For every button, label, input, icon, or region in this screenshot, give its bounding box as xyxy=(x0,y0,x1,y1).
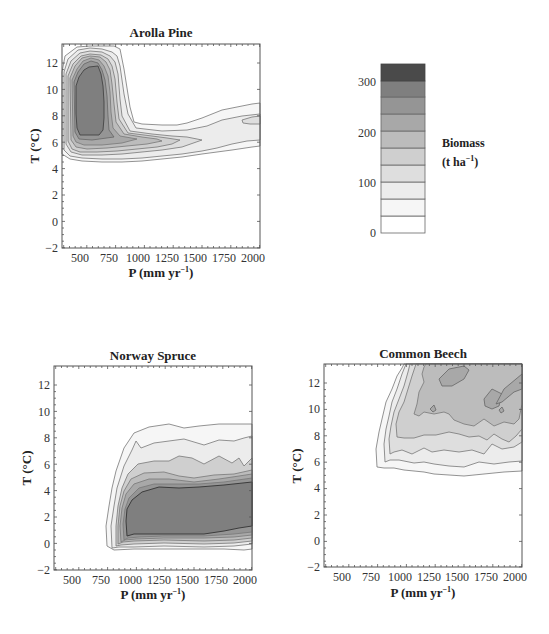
svg-text:8: 8 xyxy=(314,429,320,443)
x-axis-label: P (mm yr−1) xyxy=(54,587,252,603)
svg-text:1750: 1750 xyxy=(204,573,228,587)
svg-text:2000: 2000 xyxy=(233,573,257,587)
colorbar-legend: 0 100 200 300 Biomass (t ha−1) xyxy=(340,55,520,255)
svg-text:2: 2 xyxy=(314,508,320,522)
x-axis-label: P (mm yr−1) xyxy=(62,265,260,281)
svg-text:2: 2 xyxy=(44,510,50,524)
svg-text:500: 500 xyxy=(63,573,81,587)
panel-common-beech: Common Beech xyxy=(270,340,549,630)
svg-text:4: 4 xyxy=(44,484,50,498)
svg-text:300: 300 xyxy=(358,75,376,89)
svg-text:750: 750 xyxy=(100,251,118,265)
svg-text:10: 10 xyxy=(38,405,50,419)
svg-text:4: 4 xyxy=(52,162,58,176)
svg-text:8: 8 xyxy=(52,109,58,123)
svg-text:1750: 1750 xyxy=(212,251,236,265)
svg-text:10: 10 xyxy=(308,402,320,416)
legend-tick: 0 xyxy=(370,226,376,240)
y-axis-label: T (°C) xyxy=(19,438,35,498)
svg-text:−2: −2 xyxy=(307,560,320,574)
svg-text:1000: 1000 xyxy=(388,570,412,584)
svg-text:−2: −2 xyxy=(37,563,50,577)
svg-text:1500: 1500 xyxy=(445,570,469,584)
svg-text:0: 0 xyxy=(314,534,320,548)
svg-text:1250: 1250 xyxy=(147,573,171,587)
svg-text:500: 500 xyxy=(333,570,351,584)
svg-text:6: 6 xyxy=(52,136,58,150)
svg-text:4: 4 xyxy=(314,481,320,495)
panel-norway-spruce: Norway Spruce xyxy=(0,340,280,630)
svg-text:6: 6 xyxy=(314,455,320,469)
svg-text:6: 6 xyxy=(44,458,50,472)
svg-text:12: 12 xyxy=(308,376,320,390)
x-axis-label: P (mm yr−1) xyxy=(324,585,522,601)
legend-title: Biomass (t ha−1) xyxy=(442,136,485,170)
svg-text:1500: 1500 xyxy=(175,573,199,587)
svg-text:1250: 1250 xyxy=(155,251,179,265)
x-tick: 500 xyxy=(71,251,89,265)
svg-text:200: 200 xyxy=(358,126,376,140)
svg-text:750: 750 xyxy=(92,573,110,587)
svg-text:0: 0 xyxy=(44,537,50,551)
svg-text:750: 750 xyxy=(362,570,380,584)
svg-text:1000: 1000 xyxy=(118,573,142,587)
svg-text:0: 0 xyxy=(52,215,58,229)
svg-text:12: 12 xyxy=(46,56,58,70)
svg-text:2000: 2000 xyxy=(503,570,527,584)
svg-text:1750: 1750 xyxy=(474,570,498,584)
svg-text:2: 2 xyxy=(52,188,58,202)
svg-text:8: 8 xyxy=(44,431,50,445)
svg-text:1500: 1500 xyxy=(183,251,207,265)
svg-text:2000: 2000 xyxy=(241,251,265,265)
svg-text:−2: −2 xyxy=(45,241,58,255)
colorbar: 0 100 200 300 xyxy=(340,55,520,255)
y-axis-label: T (°C) xyxy=(289,436,305,496)
svg-text:100: 100 xyxy=(358,176,376,190)
panel-arolla-pine: Arolla Pine xyxy=(0,0,280,300)
svg-text:1250: 1250 xyxy=(417,570,441,584)
svg-text:1000: 1000 xyxy=(126,251,150,265)
svg-text:10: 10 xyxy=(46,83,58,97)
svg-text:12: 12 xyxy=(38,378,50,392)
y-axis-label: T (°C) xyxy=(27,116,43,176)
